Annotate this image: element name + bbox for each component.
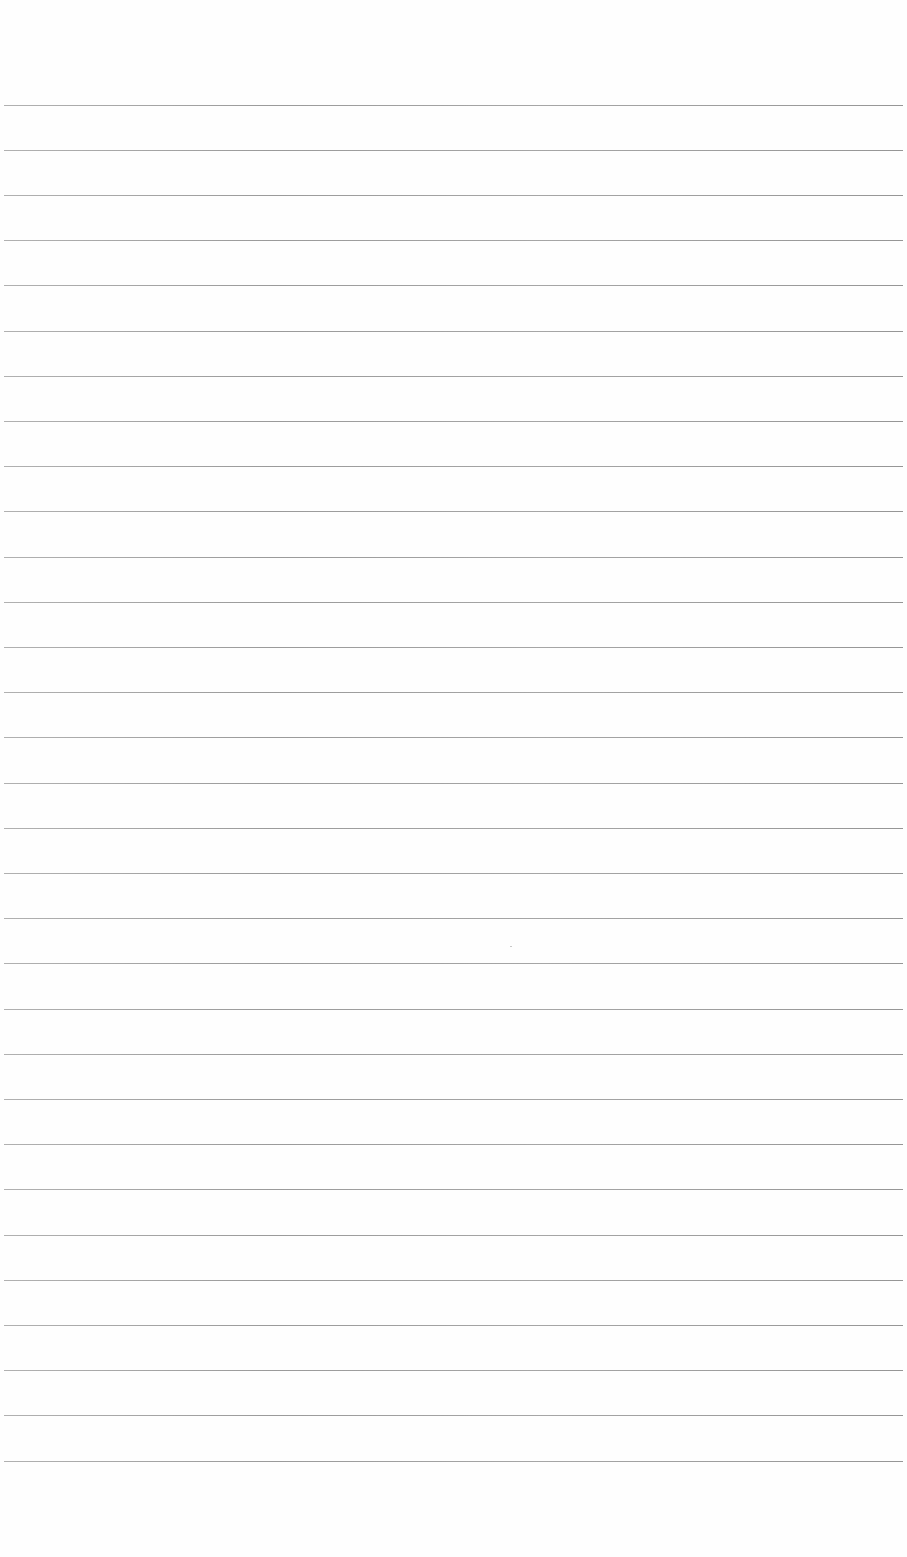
ruled-line (4, 1280, 903, 1281)
ruled-line (4, 285, 903, 286)
ruled-line (4, 376, 903, 377)
ruled-line (4, 1461, 903, 1462)
ruled-line (4, 1370, 903, 1371)
ruled-line (4, 1189, 903, 1190)
ruled-line (4, 692, 903, 693)
ruled-line (4, 1009, 903, 1010)
ruled-line (4, 105, 903, 106)
ruled-line (4, 1099, 903, 1100)
ruled-line (4, 240, 903, 241)
ruled-line (4, 466, 903, 467)
ruled-line (4, 602, 903, 603)
paper-speck (510, 946, 512, 947)
ruled-line (4, 918, 903, 919)
lined-paper-page (0, 0, 907, 1557)
ruled-line (4, 1415, 903, 1416)
ruled-line (4, 195, 903, 196)
ruled-line (4, 511, 903, 512)
ruled-line (4, 150, 903, 151)
ruled-line (4, 557, 903, 558)
ruled-line (4, 873, 903, 874)
ruled-line (4, 421, 903, 422)
ruled-line (4, 1054, 903, 1055)
ruled-line (4, 1144, 903, 1145)
ruled-line (4, 647, 903, 648)
ruled-line (4, 1235, 903, 1236)
ruled-line (4, 737, 903, 738)
ruled-line (4, 828, 903, 829)
ruled-line (4, 1325, 903, 1326)
ruled-line (4, 963, 903, 964)
ruled-line (4, 783, 903, 784)
ruled-line (4, 331, 903, 332)
